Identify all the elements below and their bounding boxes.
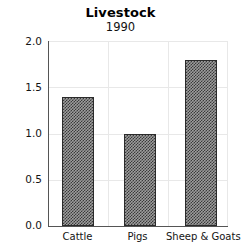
x-tick-label-sheep-and-goats: Sheep & Goats — [166, 231, 238, 243]
chart-figure: Livestock 1990 million head 2.0 1.5 1.0 … — [0, 0, 241, 251]
page-title: Livestock — [0, 5, 241, 20]
gridline-2-0 — [49, 41, 228, 42]
plot-right-edge — [227, 41, 228, 226]
y-tick-label: 1.0 — [16, 128, 42, 139]
plot-area — [48, 41, 228, 227]
category-separator — [108, 41, 109, 226]
x-tick-label-pigs: Pigs — [108, 231, 167, 243]
y-tick-label: 1.5 — [16, 82, 42, 93]
y-tick-label: 0.5 — [16, 174, 42, 185]
y-tick-label: 2.0 — [16, 36, 42, 47]
title-block: Livestock 1990 — [0, 5, 241, 34]
bar-sheep-and-goats[interactable] — [185, 60, 217, 227]
y-tick-label: 0.0 — [16, 220, 42, 231]
bar-pigs[interactable] — [124, 134, 156, 227]
x-tick-label-cattle: Cattle — [48, 231, 107, 243]
category-separator — [168, 41, 169, 226]
bar-cattle[interactable] — [62, 97, 94, 227]
chart-subtitle: 1990 — [0, 20, 241, 34]
